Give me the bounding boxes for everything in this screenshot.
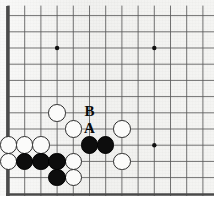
go-board-diagram: BA: [0, 0, 220, 201]
star-point: [152, 143, 156, 147]
stone-white[interactable]: [32, 136, 50, 154]
board-label-a: A: [82, 121, 98, 136]
star-point: [152, 46, 156, 50]
stone-white[interactable]: [65, 153, 83, 171]
bottom-margin: [0, 196, 220, 201]
star-point: [55, 46, 59, 50]
stone-black[interactable]: [48, 169, 66, 187]
board-grid: [0, 0, 220, 201]
stone-black[interactable]: [48, 153, 66, 171]
right-margin: [214, 0, 220, 201]
board-label-b: B: [82, 104, 98, 119]
stone-white[interactable]: [113, 153, 131, 171]
stone-white[interactable]: [65, 120, 83, 138]
stone-black[interactable]: [81, 136, 99, 154]
stone-black[interactable]: [32, 153, 50, 171]
stone-white[interactable]: [48, 104, 66, 122]
stone-white[interactable]: [113, 120, 131, 138]
